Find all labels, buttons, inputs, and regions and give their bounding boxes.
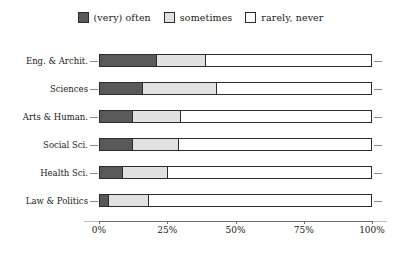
bar-rows — [99, 47, 372, 217]
x-axis-tick — [167, 221, 168, 224]
chart-legend: (very) often sometimes rarely, never — [0, 12, 401, 23]
bar-row — [99, 54, 372, 67]
legend-label-rarely-never: rarely, never — [261, 13, 323, 23]
bar-segment-often — [100, 55, 157, 66]
y-axis-tick-left — [90, 61, 98, 62]
x-axis-tick-label: 0% — [92, 226, 106, 235]
x-axis-tick-label: 50% — [225, 226, 245, 235]
x-axis-tick — [304, 221, 305, 224]
x-axis-tick — [99, 221, 100, 224]
y-axis-tick-left — [90, 145, 98, 146]
legend-label-sometimes: sometimes — [180, 13, 233, 23]
bar-row — [99, 194, 372, 207]
y-axis-tick-right — [374, 117, 382, 118]
bar-segment-sometimes — [123, 167, 168, 178]
legend-swatch-rarely-never — [245, 12, 256, 23]
y-axis-tick-right — [374, 61, 382, 62]
bar-segment-often — [100, 167, 123, 178]
y-axis-label: Social Sci. — [0, 141, 88, 150]
legend-entry-sometimes: sometimes — [164, 12, 233, 23]
bar-row — [99, 138, 372, 151]
bar-segment-often — [100, 139, 133, 150]
y-axis-tick-right — [374, 173, 382, 174]
x-axis-tick — [372, 221, 373, 224]
bar-row — [99, 166, 372, 179]
bar-segment-rarely — [217, 83, 371, 94]
legend-swatch-very-often — [78, 12, 89, 23]
bar-row — [99, 82, 372, 95]
y-axis-tick-right — [374, 89, 382, 90]
y-axis-tick-left — [90, 117, 98, 118]
y-axis-tick-left — [90, 201, 98, 202]
bar-segment-rarely — [181, 111, 371, 122]
bar-segment-often — [100, 83, 143, 94]
x-axis-tick-label: 25% — [157, 226, 177, 235]
bar-segment-sometimes — [133, 111, 182, 122]
x-axis-tick-label: 100% — [359, 226, 385, 235]
bar-segment-rarely — [168, 167, 371, 178]
legend-entry-rarely-never: rarely, never — [245, 12, 323, 23]
x-axis-tick — [236, 221, 237, 224]
legend-swatch-sometimes — [164, 12, 175, 23]
bar-segment-rarely — [149, 195, 371, 206]
y-axis-label: Sciences — [0, 85, 88, 94]
y-axis-tick-left — [90, 173, 98, 174]
plot-area — [99, 47, 372, 217]
y-axis-tick-right — [374, 201, 382, 202]
legend-label-very-often: (very) often — [94, 13, 151, 23]
y-axis-label: Law & Politics — [0, 197, 88, 206]
x-axis-tick-label: 75% — [294, 226, 314, 235]
y-axis-label: Arts & Human. — [0, 113, 88, 122]
bar-segment-sometimes — [143, 83, 216, 94]
legend-entry-very-often: (very) often — [78, 12, 151, 23]
bar-segment-rarely — [206, 55, 371, 66]
bar-segment-sometimes — [157, 55, 206, 66]
y-axis-label: Health Sci. — [0, 169, 88, 178]
bar-row — [99, 110, 372, 123]
y-axis-tick-left — [90, 89, 98, 90]
bar-segment-sometimes — [109, 195, 148, 206]
bar-segment-often — [100, 195, 109, 206]
bar-segment-sometimes — [133, 139, 179, 150]
bar-segment-rarely — [179, 139, 371, 150]
stacked-bar-chart: (very) often sometimes rarely, never Eng… — [0, 0, 401, 255]
bar-segment-often — [100, 111, 133, 122]
y-axis-tick-right — [374, 145, 382, 146]
y-axis-label: Eng. & Archit. — [0, 57, 88, 66]
